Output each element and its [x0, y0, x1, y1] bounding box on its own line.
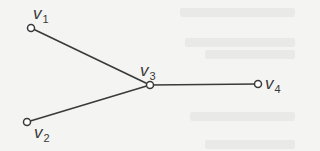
- edge-v1-v3: [31, 28, 150, 85]
- label-v1-sub: 1: [43, 13, 49, 25]
- label-v2-sub: 2: [44, 132, 50, 144]
- node-v3: [147, 82, 154, 89]
- edge-v3-v4: [150, 84, 258, 85]
- label-v1-base: v: [33, 4, 42, 23]
- node-v2: [24, 119, 31, 126]
- node-v4: [255, 81, 262, 88]
- label-v1: v1: [33, 5, 49, 25]
- edge-v2-v3: [27, 85, 150, 122]
- node-v1: [28, 25, 35, 32]
- label-v3: v3: [140, 62, 156, 82]
- label-v3-sub: 3: [150, 70, 156, 82]
- label-v2-base: v: [34, 123, 43, 142]
- label-v2: v2: [34, 124, 50, 144]
- label-v4-sub: 4: [275, 83, 281, 95]
- label-v4-base: v: [265, 74, 274, 93]
- label-v4: v4: [265, 75, 281, 95]
- label-v3-base: v: [140, 61, 149, 80]
